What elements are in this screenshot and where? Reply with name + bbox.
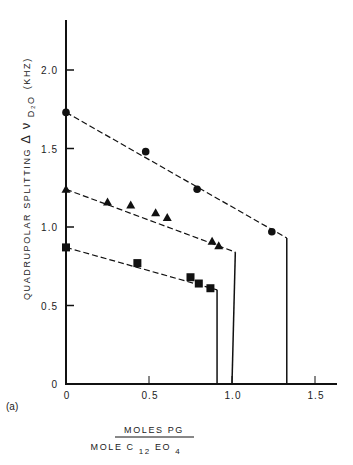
square-marker [206,284,214,292]
y-tick-label: 1.0 [41,222,58,233]
svg-text:MOLE C 12 EO: MOLE C 12 EO 4 [91,442,182,456]
circle-marker [268,228,276,236]
triangle-marker [214,241,223,249]
x-title-denominator-sub1: 12 [139,447,151,456]
y-title-nu: ν [18,121,33,129]
x-axis-title: MOLES PG MOLE C 12 EO 4 [91,425,194,456]
y-tick-label: 0 [51,379,58,390]
circle-marker [193,186,201,194]
x-title-denominator-sub2: 4 [175,447,181,456]
triangle-marker [163,213,172,221]
x-title-numerator: MOLES PG [124,425,184,435]
panel-label: (a) [6,401,18,412]
y-axis-title: QUADRUPOLAR SPLITTING Δ ν D₂O (KHZ) [18,57,36,300]
square-marker [187,273,195,281]
series-circles [62,109,287,384]
square-marker [133,259,141,267]
triangle-marker [103,197,112,205]
triangle-marker [126,201,135,209]
data-series [62,109,287,384]
y-title-prefix: QUADRUPOLAR SPLITTING [22,144,32,300]
fit-line [66,247,217,289]
square-marker [195,280,203,288]
x-title-denominator-prefix: MOLE C [91,442,135,452]
y-title-subscript: D₂O [26,95,36,117]
x-tick-label: 1.5 [308,390,325,401]
x-ticks: 00.51.01.5 [64,376,325,401]
phase-boundary-line [232,252,235,384]
x-tick-label: 0.5 [142,390,159,401]
x-title-denominator-mid: EO [155,442,171,452]
square-marker [62,243,70,251]
svg-text:QUADRUPOLAR SPLITTING Δ: QUADRUPOLAR SPLITTING Δ ν D₂O (KHZ) [18,57,36,300]
y-title-delta: Δ [18,133,33,143]
y-title-unit: (KHZ) [22,57,32,89]
fit-line [66,112,287,238]
y-tick-label: 0.5 [41,301,58,312]
triangle-marker [151,208,160,216]
triangle-marker [62,185,71,193]
x-tick-label: 0 [64,390,71,401]
chart: 00.51.01.52.0 00.51.01.5 QUADRUPOLAR SPL… [0,0,353,465]
y-tick-label: 2.0 [41,65,58,76]
circle-marker [62,109,70,117]
circle-marker [142,148,150,156]
x-tick-label: 1.0 [225,390,242,401]
series-squares [62,243,217,384]
y-tick-label: 1.5 [41,144,58,155]
triangle-marker [208,237,217,245]
